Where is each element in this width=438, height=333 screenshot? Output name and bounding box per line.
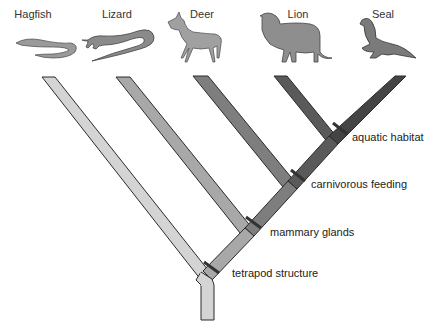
trunk [196, 272, 214, 320]
cladogram [0, 0, 438, 333]
branch-lizard [116, 77, 252, 238]
hagfish-illustration [16, 39, 76, 58]
taxon-label-deer: Deer [190, 8, 214, 20]
taxon-label-seal: Seal [372, 8, 394, 20]
taxon-label-lizard: Lizard [102, 8, 132, 20]
taxon-label-lion: Lion [288, 8, 309, 20]
character-label-tetrapod: tetrapod structure [232, 267, 318, 279]
character-label-mammary: mammary glands [270, 226, 354, 238]
lion-illustration [260, 13, 332, 62]
character-label-carnivorous: carnivorous feeding [311, 178, 407, 190]
character-label-aquatic: aquatic habitat [352, 131, 424, 143]
seal-illustration [360, 18, 416, 58]
lizard-illustration [82, 30, 154, 61]
taxon-label-hagfish: Hagfish [14, 8, 51, 20]
branch-lion [274, 76, 336, 144]
branch-hagfish [42, 77, 208, 280]
